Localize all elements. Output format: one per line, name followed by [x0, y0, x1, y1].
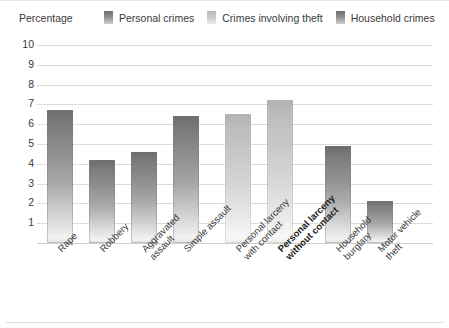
y-tick-label-9: 9	[14, 59, 34, 69]
gridline-7	[37, 104, 433, 105]
legend-label-household-crimes: Household crimes	[351, 12, 435, 24]
legend-item-crimes-involving-theft: Crimes involving theft	[207, 11, 322, 24]
gridline-8	[37, 85, 433, 86]
y-tick-label-2: 2	[14, 197, 34, 207]
y-tick-label-3: 3	[14, 178, 34, 188]
y-tick-label-7: 7	[14, 98, 34, 108]
bar-personal-larceny-with-contact[interactable]	[225, 114, 251, 243]
plot-area	[37, 45, 433, 243]
y-tick-label-5: 5	[14, 138, 34, 148]
crimes-involving-theft-swatch-icon	[207, 11, 216, 24]
legend-item-personal-crimes: Personal crimes	[104, 11, 194, 24]
y-axis-title: Percentage	[19, 12, 73, 24]
legend-label-crimes-involving-theft: Crimes involving theft	[222, 12, 322, 24]
bar-aggravated-assault[interactable]	[131, 152, 157, 243]
y-axis-tick-labels: 12345678910	[10, 45, 34, 243]
gridline-10	[37, 45, 433, 46]
y-tick-label-8: 8	[14, 79, 34, 89]
y-tick-label-6: 6	[14, 118, 34, 128]
y-tick-label-4: 4	[14, 158, 34, 168]
y-tick-label-10: 10	[14, 39, 34, 49]
gridline-9	[37, 65, 433, 66]
household-crimes-swatch-icon	[336, 11, 345, 24]
bar-rape[interactable]	[47, 110, 73, 243]
figure-top-border	[0, 0, 449, 1]
legend-item-household-crimes: Household crimes	[336, 11, 435, 24]
personal-crimes-swatch-icon	[104, 11, 113, 24]
bar-chart-figure: Percentage Personal crimes Crimes involv…	[0, 0, 449, 328]
legend-label-personal-crimes: Personal crimes	[119, 12, 194, 24]
chart-header: Percentage Personal crimes Crimes involv…	[0, 10, 449, 32]
x-axis-category-labels: RapeRobberyAggravatedassaultSimple assau…	[37, 247, 437, 325]
y-tick-label-1: 1	[14, 217, 34, 227]
chart-legend: Personal crimes Crimes involving theft H…	[104, 11, 448, 24]
